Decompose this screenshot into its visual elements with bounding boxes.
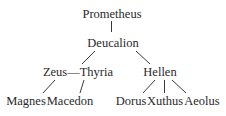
node-prometheus: Prometheus bbox=[82, 7, 141, 21]
family-tree-diagram: Prometheus Deucalion Zeus—Thyria Hellen … bbox=[0, 0, 226, 116]
edge-hellen-dorus bbox=[143, 80, 155, 93]
node-magnes: Magnes bbox=[6, 94, 46, 108]
node-xuthus: Xuthus bbox=[147, 94, 183, 108]
edge-deucalion-thyria bbox=[82, 51, 95, 64]
edge-deucalion-hellen bbox=[136, 51, 150, 64]
node-dorus: Dorus bbox=[116, 94, 147, 108]
edge-zeus-magnes bbox=[43, 80, 55, 93]
edge-thyria-macedon bbox=[80, 80, 84, 93]
node-deucalion: Deucalion bbox=[87, 36, 138, 50]
edge-hellen-aeolus bbox=[172, 80, 186, 93]
node-macedon: Macedon bbox=[47, 94, 94, 108]
node-zeus-thyria: Zeus—Thyria bbox=[43, 65, 113, 79]
node-hellen: Hellen bbox=[143, 65, 176, 79]
node-aeolus: Aeolus bbox=[184, 94, 219, 108]
